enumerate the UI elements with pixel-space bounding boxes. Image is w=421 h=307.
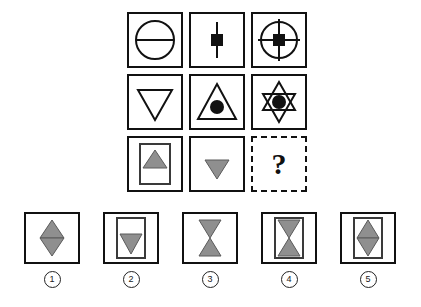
option-framed-gray-diamond[interactable] [340, 212, 396, 264]
framed-gray-diamond-icon [342, 214, 394, 262]
framed-gray-hourglass-icon [263, 214, 315, 262]
matrix-cell-r3c2[interactable] [189, 136, 245, 192]
crosshair-circle-with-black-square-icon [253, 14, 305, 66]
option-framed-gray-hourglass[interactable] [261, 212, 317, 264]
option-number-4: 4 [281, 271, 298, 288]
answer-options-row: 1 2 3 [0, 212, 421, 302]
outlined-down-triangle-icon [129, 76, 181, 128]
matrix-cell-r2c2[interactable] [189, 74, 245, 130]
answer-option-2[interactable]: 2 [103, 212, 159, 288]
answer-option-3[interactable]: 3 [182, 212, 238, 288]
option-number-3: 3 [202, 271, 219, 288]
matrix-cell-r3c3-missing[interactable]: ? [251, 136, 307, 192]
option-number-1: 1 [44, 271, 61, 288]
up-triangle-with-black-circle-icon [191, 76, 243, 128]
answer-option-4[interactable]: 4 [261, 212, 317, 288]
option-gray-diamond[interactable] [24, 212, 80, 264]
option-number-2: 2 [123, 271, 140, 288]
answer-option-1[interactable]: 1 [24, 212, 80, 288]
gray-down-triangle-icon [191, 138, 243, 190]
question-mark: ? [253, 138, 305, 190]
vertical-line-with-black-square-icon [191, 14, 243, 66]
matrix-cell-r1c1[interactable] [127, 12, 183, 68]
matrix-cell-r1c2[interactable] [189, 12, 245, 68]
gray-hourglass-icon [184, 214, 236, 262]
circle-with-horizontal-diameter-icon [129, 14, 181, 66]
puzzle-canvas: ? 1 2 [0, 0, 421, 307]
framed-gray-up-triangle-icon [129, 138, 181, 190]
option-framed-gray-down-triangle[interactable] [103, 212, 159, 264]
matrix-grid: ? [127, 12, 307, 192]
answer-option-5[interactable]: 5 [340, 212, 396, 288]
option-number-5: 5 [360, 271, 377, 288]
option-gray-hourglass[interactable] [182, 212, 238, 264]
matrix-cell-r1c3[interactable] [251, 12, 307, 68]
framed-gray-down-triangle-icon [105, 214, 157, 262]
matrix-cell-r2c1[interactable] [127, 74, 183, 130]
six-pointed-star-with-black-circle-icon [253, 76, 305, 128]
matrix-cell-r3c1[interactable] [127, 136, 183, 192]
gray-diamond-icon [26, 214, 78, 262]
matrix-cell-r2c3[interactable] [251, 74, 307, 130]
